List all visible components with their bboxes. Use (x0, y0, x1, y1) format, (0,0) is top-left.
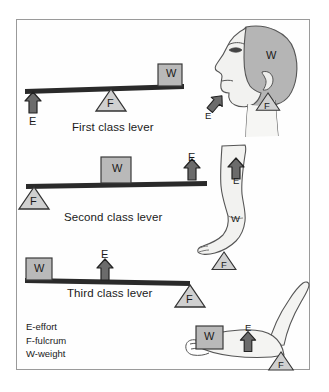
legend-effort: E-effort (26, 320, 66, 334)
effort-label-third: E (101, 249, 108, 260)
weight-label-arm: W (204, 331, 214, 342)
weight-label-third: W (34, 263, 44, 274)
caption-third-class-lever: Third class lever (67, 288, 152, 300)
caption-second-class-lever: Second class lever (64, 212, 162, 224)
effort-label-leg: E (233, 176, 239, 186)
fulcrum-label-head: F (264, 101, 270, 111)
weight-label-first: W (166, 68, 176, 79)
fulcrum-label-arm: F (278, 360, 284, 370)
weight-label-head: W (266, 50, 276, 61)
head-neck-graphic (204, 26, 297, 137)
effort-arrow-third (97, 259, 113, 280)
leg-foot-graphic (198, 145, 246, 270)
legend-weight: W-weight (26, 347, 66, 361)
effort-arrow-first (25, 92, 41, 113)
third-class-lever-graphic (25, 258, 205, 307)
caption-first-class-lever: First class lever (72, 122, 154, 134)
effort-label-first: E (29, 116, 36, 127)
fulcrum-label-first: F (107, 98, 114, 109)
effort-label-arm: E (245, 323, 251, 333)
weight-label-second: W (112, 163, 122, 174)
effort-label-head: E (205, 111, 211, 121)
legend-fulcrum: F-fulcrum (26, 334, 66, 348)
fulcrum-label-third: F (186, 294, 193, 305)
first-class-lever-graphic (25, 64, 184, 113)
lever-classes-diagram: W F E First class lever W F E Second cla… (0, 0, 329, 392)
effort-label-second: E (188, 152, 195, 163)
legend: E-effort F-fulcrum W-weight (26, 320, 66, 361)
weight-label-leg: W (231, 214, 240, 224)
fulcrum-label-second: F (30, 196, 37, 207)
fulcrum-label-leg: F (221, 260, 227, 270)
